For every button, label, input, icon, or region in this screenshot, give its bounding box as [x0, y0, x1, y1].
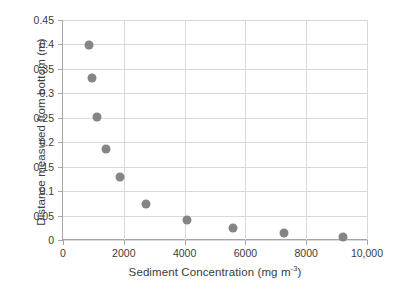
- gridline-horizontal: [63, 216, 367, 217]
- gridline-vertical: [306, 20, 307, 240]
- x-axis-title-tail: ): [297, 266, 301, 278]
- y-axis-tick-label: 0.25: [34, 112, 54, 124]
- y-axis-tick: [58, 118, 63, 119]
- gridline-horizontal: [63, 167, 367, 168]
- data-point: [87, 73, 96, 82]
- data-point: [141, 200, 150, 209]
- gridline-vertical: [367, 20, 368, 240]
- x-axis-tick: [124, 240, 125, 245]
- y-axis-line: [62, 20, 63, 240]
- y-axis-tick-label: 0.1: [39, 185, 54, 197]
- x-axis-tick-label: 0: [60, 247, 66, 259]
- y-axis-tick-label: 0: [48, 234, 54, 246]
- y-axis-tick: [58, 93, 63, 94]
- data-point: [183, 216, 192, 225]
- x-axis-title-text: Sediment Concentration (mg m: [129, 266, 291, 278]
- x-axis-tick-label: 6000: [234, 247, 257, 259]
- data-point: [228, 224, 237, 233]
- gridline-horizontal: [63, 118, 367, 119]
- x-axis-title: Sediment Concentration (mg m-3): [63, 266, 367, 278]
- x-axis-tick: [63, 240, 64, 245]
- gridline-horizontal: [63, 191, 367, 192]
- y-axis-tick-labels: 00.050.10.150.20.250.30.350.40.45: [0, 20, 54, 240]
- gridline-horizontal: [63, 44, 367, 45]
- data-point: [102, 144, 111, 153]
- gridline-horizontal: [63, 69, 367, 70]
- y-axis-tick: [58, 44, 63, 45]
- x-axis-tick: [367, 240, 368, 245]
- y-axis-tick: [58, 167, 63, 168]
- y-axis-tick: [58, 142, 63, 143]
- y-axis-tick-label: 0.35: [34, 63, 54, 75]
- y-axis-tick: [58, 69, 63, 70]
- gridline-vertical: [245, 20, 246, 240]
- gridline-horizontal: [63, 240, 367, 241]
- gridline-horizontal: [63, 142, 367, 143]
- y-axis-tick-label: 0.3: [39, 87, 54, 99]
- data-point: [85, 40, 94, 49]
- data-point: [93, 112, 102, 121]
- y-axis-tick-label: 0.15: [34, 161, 54, 173]
- x-axis-tick-label: 10,000: [351, 247, 383, 259]
- y-axis-tick: [58, 191, 63, 192]
- data-point: [338, 233, 347, 242]
- x-axis-tick-label: 4000: [173, 247, 196, 259]
- y-axis-tick-label: 0.45: [34, 14, 54, 26]
- scatter-chart-figure: Distance measured from bottom (m) 00.050…: [0, 0, 400, 292]
- y-axis-tick-label: 0.2: [39, 136, 54, 148]
- gridline-horizontal: [63, 20, 367, 21]
- y-axis-tick: [58, 216, 63, 217]
- gridline-vertical: [124, 20, 125, 240]
- data-point: [279, 229, 288, 238]
- plot-area: [63, 20, 367, 240]
- y-axis-tick: [58, 20, 63, 21]
- x-axis-tick-label: 2000: [112, 247, 135, 259]
- y-axis-tick-label: 0.05: [34, 210, 54, 222]
- y-axis-tick-label: 0.4: [39, 38, 54, 50]
- x-axis-tick: [306, 240, 307, 245]
- gridline-vertical: [185, 20, 186, 240]
- x-axis-tick: [185, 240, 186, 245]
- data-point: [115, 173, 124, 182]
- x-axis-tick: [245, 240, 246, 245]
- x-axis-tick-labels: 0200040006000800010,000: [63, 247, 367, 261]
- x-axis-tick-label: 8000: [295, 247, 318, 259]
- gridline-horizontal: [63, 93, 367, 94]
